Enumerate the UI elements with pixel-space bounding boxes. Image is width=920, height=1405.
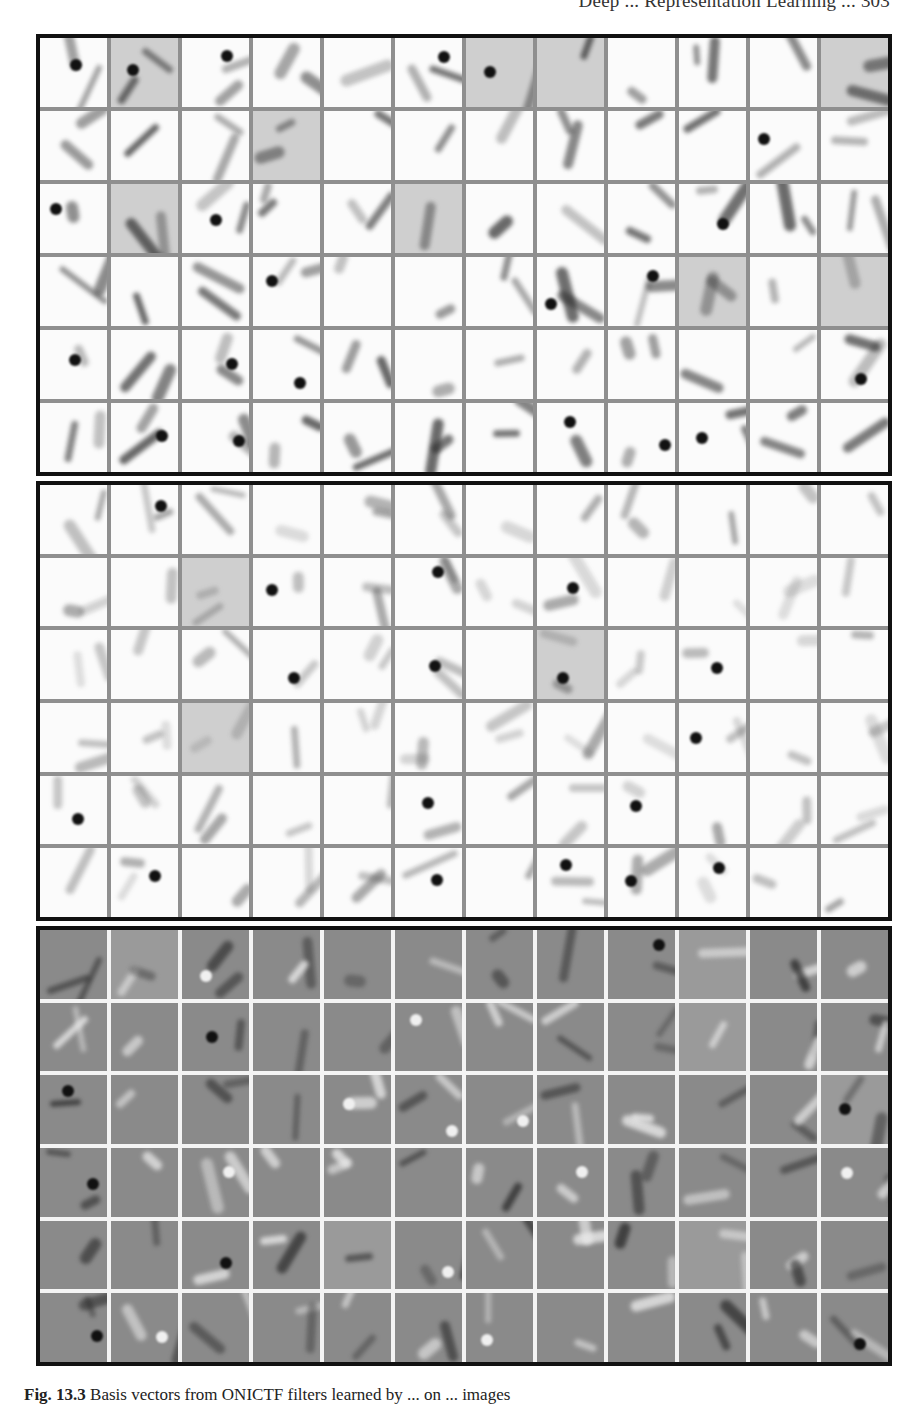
filter-cell — [324, 330, 391, 399]
filter-stroke — [499, 519, 533, 544]
filter-cell — [608, 1075, 675, 1144]
filter-dot — [156, 1331, 168, 1343]
filter-cell — [40, 330, 107, 399]
filter-dot — [87, 1178, 99, 1190]
filter-cell — [466, 403, 533, 472]
filter-stroke — [540, 1003, 580, 1026]
filter-stroke — [559, 203, 604, 247]
filter-stroke — [65, 201, 80, 224]
filter-cell — [608, 848, 675, 917]
filter-cell — [253, 930, 320, 999]
filter-cell — [111, 38, 178, 107]
filter-stroke — [803, 797, 812, 825]
filter-stroke — [258, 1148, 282, 1171]
filter-cell — [750, 1003, 817, 1072]
filter-cell — [253, 38, 320, 107]
filter-stroke — [696, 875, 719, 905]
filter-stroke — [342, 431, 364, 460]
filter-cell — [182, 485, 249, 554]
filter-dot — [223, 1166, 235, 1178]
filter-cell — [679, 630, 746, 699]
filter-cell — [537, 930, 604, 999]
filter-cell — [395, 1003, 462, 1072]
filter-stroke — [229, 703, 249, 742]
filter-cell — [466, 1293, 533, 1362]
filter-stroke — [187, 1320, 228, 1356]
filter-cell — [750, 630, 817, 699]
filter-stroke — [740, 1251, 746, 1289]
filter-stroke — [140, 485, 156, 534]
filter-dot — [625, 875, 637, 887]
filter-stroke — [775, 184, 797, 233]
filter-cell — [182, 1003, 249, 1072]
filter-cell — [679, 703, 746, 772]
filter-cell — [111, 330, 178, 399]
filter-dot — [545, 298, 557, 310]
filter-cell — [821, 403, 888, 472]
filter-cell — [608, 1221, 675, 1290]
filter-stroke — [386, 776, 391, 809]
filter-stroke — [274, 524, 310, 544]
filter-cell — [608, 111, 675, 180]
filter-stroke — [122, 123, 160, 159]
filter-stroke — [713, 1323, 732, 1352]
filter-stroke — [717, 1081, 746, 1110]
filter-cell — [679, 1148, 746, 1217]
filter-dot — [127, 64, 139, 76]
filter-cell — [182, 1221, 249, 1290]
filter-cell — [679, 403, 746, 472]
filter-stroke — [434, 123, 457, 154]
filter-stroke — [830, 136, 868, 145]
filter-cell — [750, 38, 817, 107]
figure-caption: Fig. 13.3 Basis vectors from ONICTF filt… — [24, 1385, 510, 1405]
filter-cell — [395, 403, 462, 472]
filter-cell — [821, 1293, 888, 1362]
filter-dot — [431, 874, 443, 886]
filter-stroke — [190, 644, 218, 670]
filter-cell — [466, 1003, 533, 1072]
filter-stroke — [234, 1019, 245, 1051]
filter-dot — [206, 1031, 218, 1043]
filter-cell — [324, 1075, 391, 1144]
filter-stroke — [488, 930, 509, 943]
filter-cell — [466, 1221, 533, 1290]
filter-stroke — [621, 779, 647, 799]
filter-stroke — [579, 493, 604, 523]
filter-stroke — [213, 970, 245, 999]
filter-cell — [679, 111, 746, 180]
filter-stroke — [558, 930, 577, 984]
filter-cell — [182, 558, 249, 627]
filter-cell — [608, 38, 675, 107]
filter-dot — [841, 1167, 853, 1179]
filter-stroke — [581, 705, 604, 761]
filter-stroke — [356, 707, 370, 733]
filter-stroke — [654, 1042, 675, 1056]
filter-cell — [750, 184, 817, 253]
filter-stroke — [869, 194, 888, 253]
filter-stroke — [284, 821, 313, 838]
filter-dot — [630, 800, 642, 812]
filter-stroke — [94, 410, 107, 448]
filter-stroke — [274, 118, 296, 134]
filter-stroke — [79, 1193, 102, 1211]
filter-stroke — [652, 960, 675, 981]
filter-dot — [266, 584, 278, 596]
filter-cell — [324, 1221, 391, 1290]
filter-stroke — [634, 111, 666, 131]
filter-cell — [253, 630, 320, 699]
filter-stroke — [300, 414, 320, 432]
filter-cell — [111, 403, 178, 472]
filter-stroke — [64, 848, 96, 895]
filter-stroke — [377, 1013, 391, 1056]
filter-stroke — [792, 1088, 817, 1127]
filter-cell — [253, 776, 320, 845]
filter-stroke — [707, 38, 720, 83]
filter-stroke — [200, 1157, 225, 1215]
filter-stroke — [327, 1158, 355, 1177]
filter-stroke — [798, 1328, 817, 1350]
filter-stroke — [415, 1335, 443, 1361]
filter-stroke — [345, 197, 369, 226]
filter-cell — [750, 558, 817, 627]
filter-cell — [40, 257, 107, 326]
filter-cell — [679, 257, 746, 326]
